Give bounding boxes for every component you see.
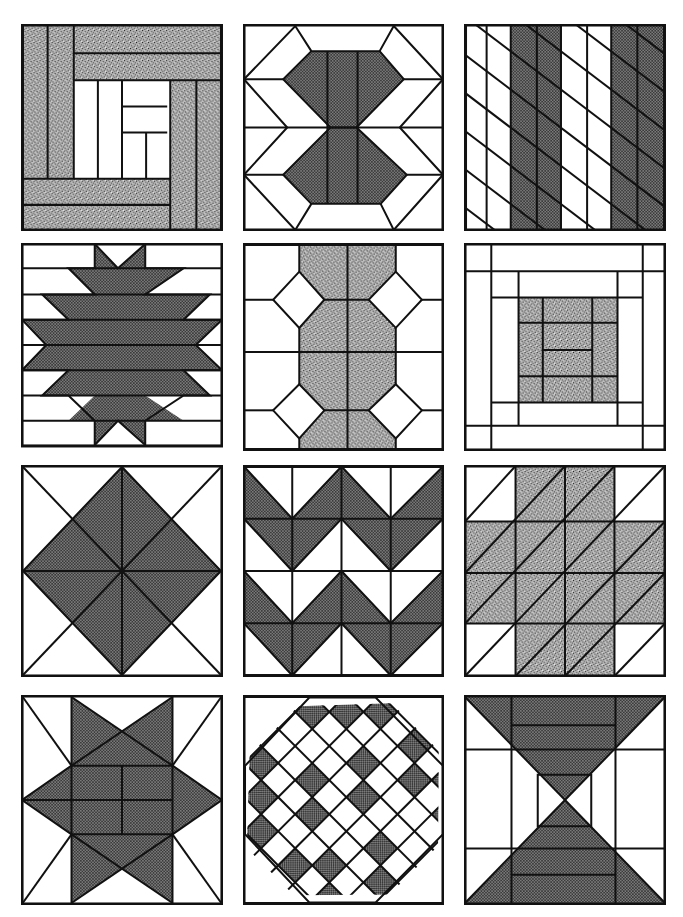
quilt-block-hourglass-frame	[464, 695, 666, 905]
quilt-block-diamond-in-square	[21, 465, 223, 677]
log-cabin-stippled-icon	[21, 24, 223, 231]
octagon-chain-icon	[243, 243, 444, 451]
cross-of-triangles-icon	[464, 465, 666, 677]
checkered-diamond-icon	[243, 695, 444, 905]
quilt-block-navajo-star	[21, 243, 223, 451]
hexagon-hourglass-icon	[243, 24, 444, 231]
quilt-block-log-cabin-stippled	[21, 24, 223, 231]
sawtooth-star-icon	[21, 695, 223, 905]
diamond-in-square-icon	[21, 465, 223, 677]
quilt-block-flying-geese-zigzag	[243, 465, 444, 677]
hourglass-frame-icon	[464, 695, 666, 905]
quilt-block-sawtooth-star	[21, 695, 223, 905]
quilt-block-hexagon-hourglass	[243, 24, 444, 231]
quilt-block-diagonal-stripes	[464, 24, 666, 231]
zigzag-icon	[243, 465, 444, 677]
navajo-star-icon	[21, 243, 223, 451]
quilt-block-octagon-chain	[243, 243, 444, 451]
diagonal-stripes-icon	[464, 24, 666, 231]
log-cabin-centre-icon	[464, 243, 666, 451]
quilt-block-checkered-diamond	[243, 695, 444, 905]
quilt-block-cross-of-triangles	[464, 465, 666, 677]
quilt-block-log-cabin-centre	[464, 243, 666, 451]
